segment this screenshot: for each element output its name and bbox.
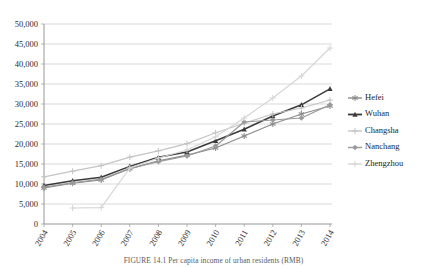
data-point-marker: [327, 86, 332, 91]
series-zhengzhou: [70, 45, 333, 211]
data-point-marker: [98, 163, 104, 169]
x-axis-tick-label: 2014: [319, 227, 337, 247]
series-wuhan: [41, 86, 332, 188]
chart-container: 05,00010,00015,00020,00025,00030,00035,0…: [0, 0, 427, 267]
y-axis-tick-label: 5,000: [19, 199, 38, 209]
series-line: [44, 89, 330, 186]
legend-item-nanchang[interactable]: Nanchang: [348, 141, 400, 151]
x-axis-tick-labels: 2004200520062007200820092010201120122013…: [33, 227, 337, 247]
chart-legend: HefeiWuhanChangshaNanchangZhengzhou: [348, 92, 404, 168]
data-point-marker: [155, 148, 161, 154]
y-axis-tick-label: 50,000: [15, 19, 38, 29]
data-point-marker: [213, 134, 219, 140]
line-chart: 05,00010,00015,00020,00025,00030,00035,0…: [0, 0, 427, 267]
data-point-marker: [242, 133, 247, 139]
y-axis-tick-label: 0: [34, 219, 38, 229]
data-point-marker: [184, 141, 190, 147]
data-point-marker: [70, 205, 76, 211]
x-axis-tick-label: 2005: [61, 228, 78, 248]
y-axis-tick-label: 10,000: [15, 179, 38, 189]
legend-item-zhengzhou[interactable]: Zhengzhou: [348, 158, 404, 168]
data-point-marker: [352, 145, 358, 151]
data-point-marker: [70, 168, 76, 174]
y-axis-tick-label: 30,000: [15, 99, 38, 109]
legend-label: Nanchang: [365, 141, 400, 151]
y-axis-tick-label: 20,000: [15, 139, 38, 149]
series-lines: [41, 45, 333, 211]
data-point-marker: [352, 128, 358, 134]
y-axis-tick-label: 40,000: [15, 59, 38, 69]
x-axis-tick-label: 2004: [33, 227, 51, 247]
data-point-marker: [270, 111, 276, 117]
data-point-marker: [41, 174, 47, 180]
legend-label: Zhengzhou: [365, 158, 404, 168]
data-point-marker: [352, 161, 358, 167]
legend-item-changsha[interactable]: Changsha: [348, 125, 399, 135]
legend-label: Wuhan: [365, 108, 390, 118]
x-axis-tick-label: 2012: [261, 228, 278, 248]
y-axis-tick-label: 35,000: [15, 79, 38, 89]
legend-label: Changsha: [365, 125, 399, 135]
y-axis-tick-label: 15,000: [15, 159, 38, 169]
data-point-marker: [127, 154, 133, 160]
x-axis-tick-label: 2013: [290, 228, 307, 248]
x-axis-tick-label: 2009: [176, 228, 193, 248]
x-axis-tick-label: 2010: [204, 228, 221, 248]
y-axis-tick-label: 25,000: [15, 119, 38, 129]
x-axis-tick-label: 2007: [118, 228, 135, 248]
figure-caption: FIGURE 14.1 Per capita income of urban r…: [0, 256, 427, 265]
legend-item-wuhan[interactable]: Wuhan: [348, 108, 390, 118]
gridlines: [41, 24, 332, 224]
y-axis-tick-labels: 05,00010,00015,00020,00025,00030,00035,0…: [15, 19, 38, 229]
series-line: [44, 100, 330, 177]
data-point-marker: [299, 115, 305, 121]
x-axis-tick-label: 2008: [147, 228, 164, 248]
legend-item-hefei[interactable]: Hefei: [348, 92, 385, 102]
legend-label: Hefei: [365, 92, 385, 102]
x-axis-tick-label: 2006: [90, 228, 107, 248]
x-axis-tick-label: 2011: [233, 228, 250, 247]
y-axis-tick-label: 45,000: [15, 39, 38, 49]
